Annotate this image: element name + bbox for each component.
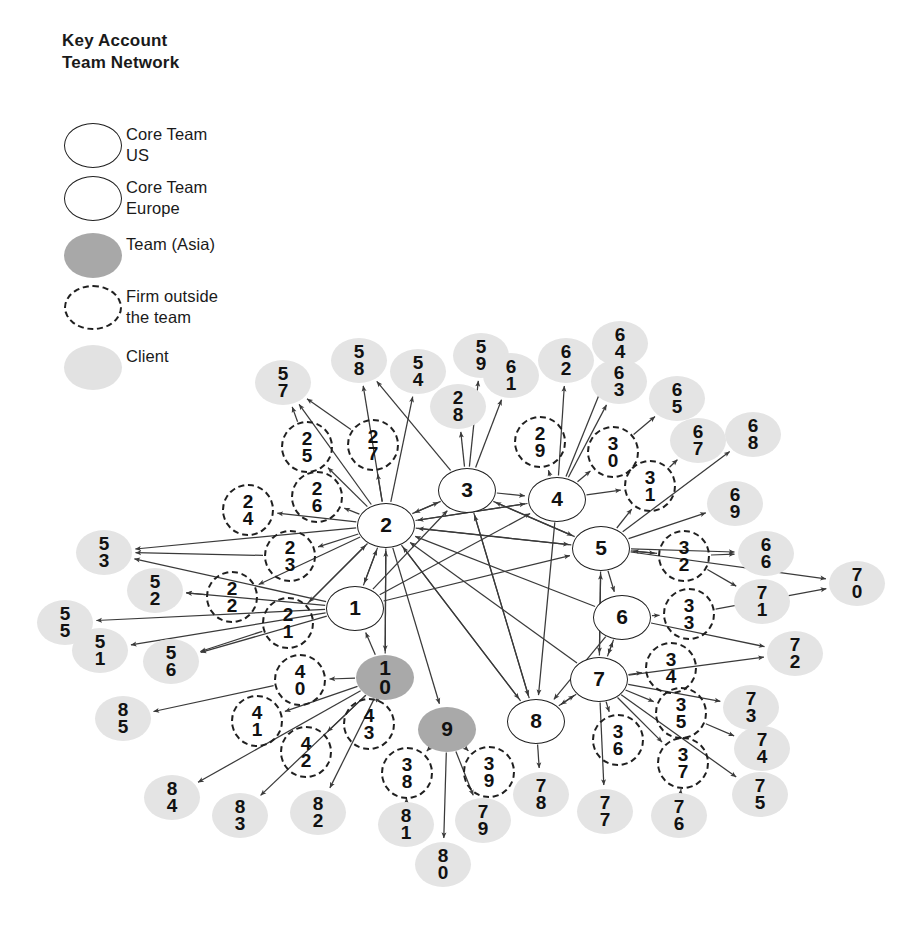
- graph-node-58[interactable]: 5 8: [331, 338, 387, 383]
- graph-node-67[interactable]: 6 7: [670, 418, 726, 463]
- graph-node-74[interactable]: 7 4: [734, 726, 790, 771]
- graph-edge: [200, 631, 262, 651]
- graph-node-21[interactable]: 2 1: [262, 597, 314, 649]
- graph-node-label: 7 1: [757, 584, 768, 618]
- graph-node-label: 2 2: [227, 580, 238, 614]
- graph-node-79[interactable]: 7 9: [455, 798, 511, 843]
- graph-node-82[interactable]: 8 2: [290, 790, 346, 835]
- legend-item-team-asia: Team (Asia): [62, 232, 215, 278]
- graph-node-26[interactable]: 2 6: [291, 471, 343, 523]
- graph-node-66[interactable]: 6 6: [738, 531, 794, 576]
- graph-node-71[interactable]: 7 1: [734, 579, 790, 624]
- graph-node-43[interactable]: 4 3: [343, 698, 395, 750]
- graph-node-label: 4 0: [295, 663, 306, 697]
- graph-node-57[interactable]: 5 7: [255, 360, 311, 405]
- graph-node-61[interactable]: 6 1: [483, 353, 539, 398]
- graph-node-label: 3 1: [645, 469, 656, 503]
- graph-node-70[interactable]: 7 0: [829, 561, 885, 606]
- graph-edge: [363, 550, 376, 586]
- graph-node-label: 4 2: [301, 735, 312, 769]
- graph-edge: [608, 640, 613, 655]
- graph-node-1[interactable]: 1: [326, 586, 384, 631]
- graph-node-label: 6 6: [761, 536, 772, 570]
- graph-node-78[interactable]: 7 8: [513, 772, 569, 817]
- graph-node-label: 6 3: [614, 364, 625, 398]
- graph-node-55[interactable]: 5 5: [37, 600, 93, 645]
- graph-edge: [561, 694, 576, 704]
- graph-node-33[interactable]: 3 3: [663, 588, 715, 640]
- graph-edge: [415, 501, 441, 512]
- graph-edge: [378, 474, 383, 502]
- graph-node-2[interactable]: 2: [357, 503, 415, 548]
- graph-edge: [416, 528, 569, 544]
- graph-node-69[interactable]: 6 9: [707, 481, 763, 526]
- graph-node-6[interactable]: 6: [593, 595, 651, 640]
- graph-node-10[interactable]: 1 0: [356, 655, 414, 700]
- graph-node-64[interactable]: 6 4: [592, 321, 648, 366]
- graph-node-27[interactable]: 2 7: [347, 419, 399, 471]
- graph-node-53[interactable]: 5 3: [76, 530, 132, 575]
- legend-item-firm-outside: Firm outside the team: [62, 284, 218, 330]
- graph-node-77[interactable]: 7 7: [577, 789, 633, 834]
- graph-node-73[interactable]: 7 3: [723, 685, 779, 730]
- graph-node-29[interactable]: 2 9: [514, 416, 566, 468]
- graph-node-31[interactable]: 3 1: [624, 460, 676, 512]
- graph-node-label: 6 9: [730, 486, 741, 520]
- graph-node-3[interactable]: 3: [438, 468, 496, 513]
- graph-node-9[interactable]: 9: [418, 707, 476, 752]
- graph-node-label: 7 8: [536, 777, 547, 811]
- graph-node-65[interactable]: 6 5: [649, 376, 705, 421]
- graph-node-39[interactable]: 3 9: [463, 746, 515, 798]
- graph-node-81[interactable]: 8 1: [378, 802, 434, 847]
- graph-node-25[interactable]: 2 5: [281, 421, 333, 473]
- graph-edge: [475, 515, 530, 698]
- graph-node-label: 2 9: [535, 425, 546, 459]
- graph-edge: [497, 493, 525, 496]
- graph-edge: [711, 554, 735, 555]
- graph-node-label: 6 7: [693, 423, 704, 457]
- graph-node-62[interactable]: 6 2: [538, 338, 594, 383]
- graph-node-32[interactable]: 3 2: [658, 530, 710, 582]
- graph-node-23[interactable]: 2 3: [264, 530, 316, 582]
- graph-node-4[interactable]: 4: [528, 477, 586, 522]
- graph-node-28[interactable]: 2 8: [430, 384, 486, 429]
- graph-node-5[interactable]: 5: [572, 526, 630, 571]
- graph-node-75[interactable]: 7 5: [732, 772, 788, 817]
- graph-edge: [608, 571, 614, 592]
- graph-node-83[interactable]: 8 3: [212, 793, 268, 838]
- graph-edge: [465, 748, 468, 751]
- graph-node-label: 6 5: [672, 381, 683, 415]
- graph-node-7[interactable]: 7: [570, 657, 628, 702]
- graph-node-42[interactable]: 4 2: [280, 726, 332, 778]
- graph-node-36[interactable]: 3 6: [592, 714, 644, 766]
- graph-node-24[interactable]: 2 4: [222, 484, 274, 536]
- graph-edge: [410, 542, 577, 663]
- graph-node-label: 4 1: [252, 704, 263, 738]
- graph-node-80[interactable]: 8 0: [415, 842, 471, 887]
- graph-node-54[interactable]: 5 4: [390, 349, 446, 394]
- graph-node-37[interactable]: 3 7: [657, 737, 709, 789]
- graph-node-8[interactable]: 8: [507, 699, 565, 744]
- graph-node-label: 7 7: [600, 794, 611, 828]
- graph-node-38[interactable]: 3 8: [381, 747, 433, 799]
- graph-node-35[interactable]: 3 5: [655, 687, 707, 739]
- graph-node-40[interactable]: 4 0: [274, 654, 326, 706]
- graph-edge: [330, 678, 356, 679]
- graph-node-34[interactable]: 3 4: [645, 642, 697, 694]
- legend-label-core-europe: Core Team Europe: [126, 175, 207, 219]
- graph-node-56[interactable]: 5 6: [143, 639, 199, 684]
- graph-node-label: 8 2: [313, 795, 324, 829]
- graph-node-76[interactable]: 7 6: [651, 793, 707, 838]
- graph-node-72[interactable]: 7 2: [767, 631, 823, 676]
- graph-node-52[interactable]: 5 2: [127, 568, 183, 613]
- graph-node-84[interactable]: 8 4: [144, 775, 200, 820]
- graph-edge: [415, 536, 595, 606]
- graph-node-85[interactable]: 8 5: [95, 696, 151, 741]
- graph-edge: [538, 745, 540, 769]
- graph-node-68[interactable]: 6 8: [725, 412, 781, 457]
- graph-node-label: 3 5: [676, 696, 687, 730]
- legend-label-client: Client: [126, 344, 169, 367]
- graph-node-41[interactable]: 4 1: [231, 695, 283, 747]
- graph-node-22[interactable]: 2 2: [206, 571, 258, 623]
- graph-node-label: 2 8: [453, 389, 464, 423]
